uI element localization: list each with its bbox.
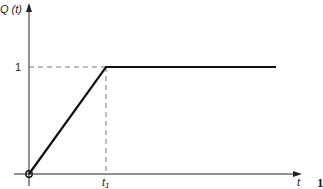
chart: Q (t) 1 t1 t 1 bbox=[0, 0, 323, 189]
x-axis-label: t bbox=[297, 176, 301, 188]
y-axis-arrow-icon bbox=[26, 3, 32, 12]
y-tick-label: 1 bbox=[15, 61, 21, 73]
y-axis-label: Q (t) bbox=[0, 3, 22, 15]
figure-mark: 1 bbox=[317, 175, 323, 189]
x-tick-label: t1 bbox=[102, 176, 110, 189]
q-curve bbox=[29, 67, 276, 174]
